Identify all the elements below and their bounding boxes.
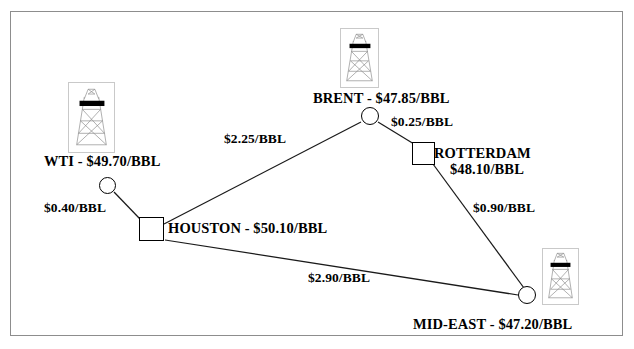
node-wti[interactable] [99, 177, 116, 194]
node-label-rotterdam: ROTTERDAM $48.10/BBL [434, 145, 531, 177]
node-mideast[interactable] [518, 286, 536, 304]
oil-rig-icon-wti [68, 82, 115, 153]
node-label-wti: WTI - $49.70/BBL [44, 153, 160, 169]
edge-line-wti-houston [114, 192, 140, 219]
edge-lines-layer [0, 0, 634, 349]
node-brent[interactable] [361, 107, 379, 125]
node-label-rotterdam-name: ROTTERDAM [434, 145, 531, 161]
diagram-canvas: WTI - $49.70/BBL $0.40/BBL [0, 0, 634, 349]
edge-label-brent-rotterdam: $0.25/BBL [391, 114, 453, 129]
node-label-rotterdam-price: $48.10/BBL [434, 161, 531, 177]
edge-label-houston-mideast: $2.90/BBL [308, 270, 370, 285]
oil-rig-icon-brent [340, 28, 379, 88]
edge-line-rotterdam-mideast [433, 164, 524, 288]
node-label-brent: BRENT - $47.85/BBL [313, 90, 450, 106]
node-houston[interactable] [139, 217, 164, 241]
edge-label-rotterdam-mideast: $0.90/BBL [473, 200, 535, 215]
node-rotterdam[interactable] [412, 142, 435, 165]
edge-label-houston-brent: $2.25/BBL [224, 131, 286, 146]
edge-label-wti-houston: $0.40/BBL [44, 200, 106, 215]
edge-line-houston-mideast [165, 240, 518, 295]
node-label-mideast: MID-EAST - $47.20/BBL [413, 316, 572, 332]
oil-rig-icon-mideast [542, 248, 579, 305]
node-label-houston: HOUSTON - $50.10/BBL [168, 220, 327, 236]
